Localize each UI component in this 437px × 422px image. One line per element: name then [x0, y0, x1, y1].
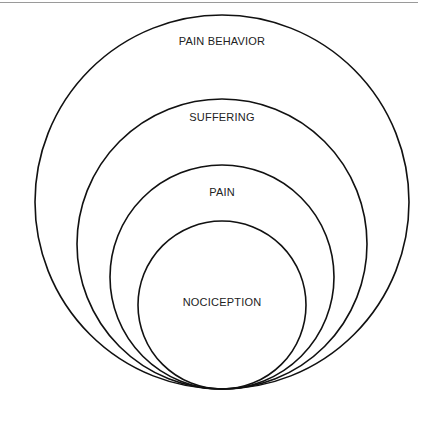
circle-suffering [77, 99, 367, 389]
label-pain: PAIN [209, 186, 235, 198]
label-pain-behavior: PAIN BEHAVIOR [179, 35, 266, 47]
nested-circles-diagram: PAIN BEHAVIOR SUFFERING PAIN NOCICEPTION [0, 0, 437, 422]
label-nociception: NOCICEPTION [183, 296, 262, 308]
circle-pain-behavior [35, 15, 409, 389]
label-suffering: SUFFERING [189, 111, 254, 123]
